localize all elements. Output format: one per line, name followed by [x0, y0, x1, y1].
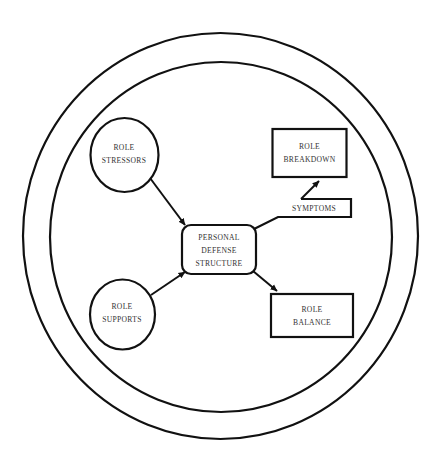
edge-symptoms-to-breakdown — [301, 181, 319, 199]
role-breakdown-box — [273, 129, 347, 177]
edge-stressors-to-defense — [150, 178, 185, 225]
role-stressors-line2: STRESSORS — [102, 156, 146, 165]
node-role-balance: ROLE BALANCE — [271, 294, 353, 337]
role-supports-line2: SUPPORTS — [102, 315, 142, 324]
role-balance-line1: ROLE — [301, 305, 322, 314]
edge-supports-to-defense — [151, 272, 185, 295]
node-personal-defense-structure: PERSONAL DEFENSE STRUCTURE — [182, 225, 256, 274]
node-role-stressors: ROLE STRESSORS — [91, 118, 159, 192]
role-balance-line2: BALANCE — [293, 318, 331, 327]
role-stress-diagram: SYMPTOMS ROLE STRESSORS ROLE SUPPORTS PE… — [0, 0, 445, 462]
personal-defense-line1: PERSONAL — [198, 233, 240, 242]
role-stressors-circle — [91, 118, 159, 192]
node-role-breakdown: ROLE BREAKDOWN — [273, 129, 347, 177]
personal-defense-line3: STRUCTURE — [195, 259, 242, 268]
role-stressors-line1: ROLE — [113, 143, 134, 152]
personal-defense-line2: DEFENSE — [201, 246, 236, 255]
role-supports-line1: ROLE — [111, 302, 132, 311]
role-balance-box — [271, 294, 353, 337]
symptoms-label: SYMPTOMS — [292, 204, 336, 213]
edge-defense-to-balance — [253, 271, 277, 291]
role-breakdown-line1: ROLE — [299, 142, 320, 151]
role-breakdown-line2: BREAKDOWN — [283, 155, 335, 164]
node-role-supports: ROLE SUPPORTS — [90, 280, 155, 350]
